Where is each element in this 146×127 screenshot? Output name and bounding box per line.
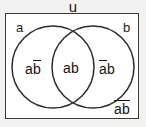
universe-label: u — [0, 0, 146, 14]
region-term-a: a — [25, 61, 33, 77]
set-label-b: b — [123, 21, 130, 34]
venn-diagram-figure: u a b ab ab ab ab — [0, 0, 146, 127]
region-label-intersection: ab — [63, 60, 79, 76]
region-term-b-complement: b — [33, 60, 41, 77]
set-label-a: a — [16, 21, 23, 34]
bottom-margin-strip — [0, 121, 146, 127]
region-label-outside: ab — [114, 100, 130, 117]
region-term-b: b — [107, 61, 115, 77]
region-term-a-complement: a — [99, 60, 107, 77]
region-term-ab: ab — [63, 60, 79, 76]
region-term-ab-complement: ab — [114, 100, 130, 117]
region-label-left-only: ab — [25, 60, 41, 77]
region-label-right-only: ab — [99, 60, 115, 77]
